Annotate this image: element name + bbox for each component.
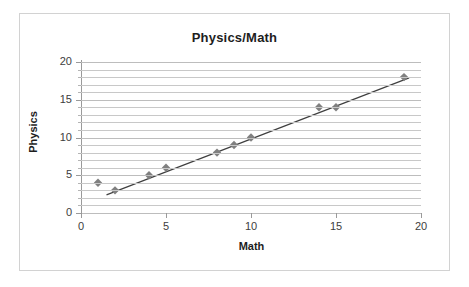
gridline [81, 168, 421, 169]
x-axis-tick-label: 20 [406, 221, 436, 232]
gridline [81, 145, 421, 146]
gridline [81, 107, 421, 108]
x-axis-tick [336, 213, 337, 218]
y-axis-minor-tick [78, 85, 81, 86]
y-axis-minor-tick [78, 153, 81, 154]
gridline [81, 85, 421, 86]
y-axis-minor-tick [78, 198, 81, 199]
y-axis-tick-label: 0 [46, 207, 72, 218]
gridline [81, 175, 421, 176]
y-axis-tick [76, 175, 81, 176]
y-axis-tick [76, 100, 81, 101]
trend-line-segment [107, 78, 410, 195]
gridline [81, 138, 421, 139]
data-series-layer [20, 14, 451, 272]
y-axis-tick-label: 5 [46, 169, 72, 180]
chart-frame: Physics/Math Physics Math 05101520051015… [19, 13, 450, 271]
y-axis-minor-tick [78, 122, 81, 123]
x-axis-tick-label: 10 [236, 221, 266, 232]
y-axis-tick-label: 15 [46, 94, 72, 105]
x-axis-tick [251, 213, 252, 218]
gridline [81, 183, 421, 184]
gridline [81, 130, 421, 131]
y-axis-minor-tick [78, 205, 81, 206]
y-axis-minor-tick [78, 115, 81, 116]
x-axis-tick [81, 213, 82, 218]
trend-line [107, 78, 410, 195]
gridline [81, 205, 421, 206]
y-axis-minor-tick [78, 145, 81, 146]
x-axis-tick-label: 0 [66, 221, 96, 232]
y-axis-minor-tick [78, 107, 81, 108]
gridline [81, 115, 421, 116]
y-axis-tick-label: 10 [46, 132, 72, 143]
y-axis-tick [76, 62, 81, 63]
gridline [81, 62, 421, 63]
y-axis-minor-tick [78, 70, 81, 71]
y-axis-minor-tick [78, 183, 81, 184]
y-axis-minor-tick [78, 77, 81, 78]
y-axis-minor-tick [78, 92, 81, 93]
gridline [81, 77, 421, 78]
y-axis-tick-label: 20 [46, 56, 72, 67]
gridline [81, 92, 421, 93]
x-axis-tick-label: 15 [321, 221, 351, 232]
y-axis-minor-tick [78, 168, 81, 169]
gridline [81, 198, 421, 199]
gridline [81, 100, 421, 101]
y-axis-minor-tick [78, 160, 81, 161]
gridline [81, 190, 421, 191]
x-axis-tick [166, 213, 167, 218]
y-axis-tick [76, 138, 81, 139]
y-axis-minor-tick [78, 130, 81, 131]
gridline [81, 160, 421, 161]
gridline [81, 70, 421, 71]
x-axis-tick [421, 213, 422, 218]
gridline [81, 122, 421, 123]
gridline [81, 153, 421, 154]
x-axis-tick-label: 5 [151, 221, 181, 232]
y-axis-minor-tick [78, 190, 81, 191]
